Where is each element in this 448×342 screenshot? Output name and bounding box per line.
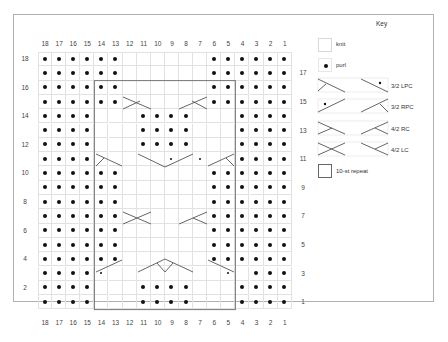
key-label-lpc: 3/2 LPC	[391, 83, 413, 89]
key-cable-symbols	[0, 0, 448, 342]
key-label-repeat: 10-st repeat	[336, 168, 368, 174]
key-label-rpc: 3/2 RPC	[391, 104, 414, 110]
key-label-lc: 4/2 LC	[391, 147, 409, 153]
repeat-box-icon	[318, 164, 332, 178]
key-label-rc: 4/2 RC	[391, 126, 410, 132]
